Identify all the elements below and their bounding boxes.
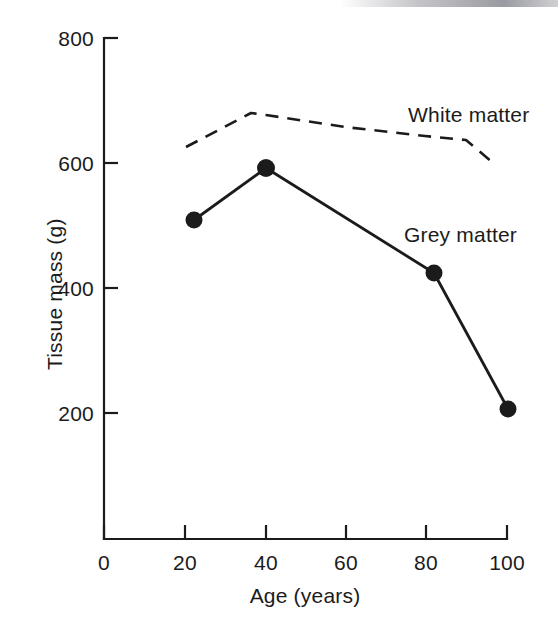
series-annotation-white-matter: White matter [408,104,529,125]
x-axis-ticks [104,525,507,539]
data-point-marker [257,159,275,177]
chart-figure: 800 600 400 200 0 20 40 60 80 100 White … [0,0,558,628]
series-line-grey-matter [194,168,508,409]
data-point-marker [426,265,443,282]
y-tick-label-800: 800 [30,28,94,49]
y-axis-ticks [104,38,118,413]
x-tick-label-80: 80 [396,552,456,573]
data-point-marker [500,401,517,418]
x-tick-label-20: 20 [155,552,215,573]
series-markers-grey-matter [186,159,517,418]
x-tick-label-100: 100 [477,552,537,573]
x-tick-label-40: 40 [236,552,296,573]
x-tick-label-60: 60 [316,552,376,573]
data-point-marker [186,212,203,229]
x-tick-label-0: 0 [74,552,134,573]
x-axis-title: Age (years) [230,585,380,606]
series-annotation-grey-matter: Grey matter [404,224,517,245]
y-tick-label-600: 600 [30,153,94,174]
y-tick-label-200: 200 [30,403,94,424]
line-chart-plot [0,0,558,628]
y-axis-title: Tissue mass (g) [44,218,65,370]
